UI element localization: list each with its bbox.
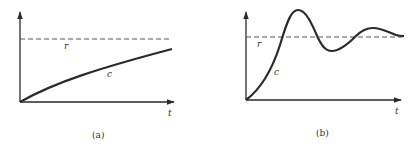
panel-a: r c t (a) bbox=[20, 12, 174, 140]
caption-b: (b) bbox=[316, 128, 329, 138]
response-curve-b bbox=[246, 10, 404, 100]
caption-a: (a) bbox=[92, 130, 104, 140]
response-label-b: c bbox=[274, 67, 279, 77]
response-diagram: r c t (a) r c t (b) bbox=[0, 0, 420, 148]
reference-label-a: r bbox=[64, 41, 69, 51]
response-label-a: c bbox=[107, 69, 112, 79]
reference-label-b: r bbox=[257, 39, 262, 49]
response-curve-a bbox=[20, 49, 172, 102]
time-label-a: t bbox=[168, 108, 172, 118]
time-label-b: t bbox=[395, 106, 399, 116]
panel-b: r c t (b) bbox=[246, 10, 404, 138]
